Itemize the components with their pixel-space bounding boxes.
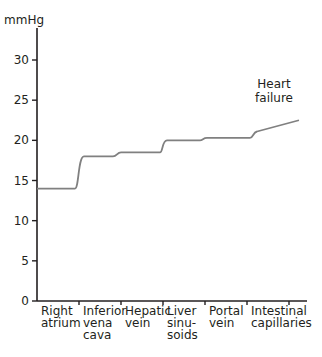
x-category-label: capillaries (251, 316, 312, 330)
annotation-heart: Heart (257, 77, 291, 91)
x-category-label: atrium (41, 316, 81, 330)
x-category-label: vein (209, 316, 234, 330)
x-category-label: cava (83, 328, 111, 342)
y-axis-label: mmHg (4, 13, 44, 27)
y-tick-label: 0 (21, 294, 29, 308)
heart-failure-line (37, 120, 299, 188)
y-tick-label: 20 (14, 133, 29, 147)
y-tick-label: 25 (14, 93, 29, 107)
y-tick-label: 15 (14, 174, 29, 188)
x-category-label: vein (125, 316, 150, 330)
y-tick-label: 5 (21, 254, 29, 268)
pressure-chart: mmHg051015202530RightatriumInferiorvenac… (0, 0, 322, 357)
annotation-failure: failure (255, 91, 293, 105)
x-category-label: soids (167, 328, 198, 342)
y-tick-label: 30 (14, 53, 29, 67)
y-tick-label: 10 (14, 214, 29, 228)
